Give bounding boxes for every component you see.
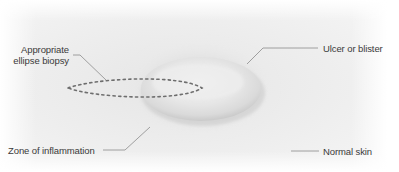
biopsy-diagram: Appropriate ellipse biopsy Ulcer or blis… — [0, 0, 399, 172]
label-biopsy-line1: Appropriate — [12, 44, 69, 55]
label-biopsy: Appropriate ellipse biopsy — [12, 44, 69, 66]
label-biopsy-line2: ellipse biopsy — [12, 55, 69, 66]
label-normal-skin: Normal skin — [323, 146, 372, 157]
label-ulcer: Ulcer or blister — [323, 43, 383, 54]
label-inflammation: Zone of inflammation — [8, 145, 95, 156]
